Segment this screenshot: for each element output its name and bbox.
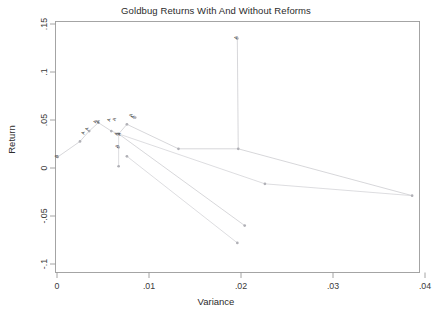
data-point-marker bbox=[117, 165, 120, 168]
y-tick-label: 0 bbox=[39, 165, 49, 170]
data-point-marker bbox=[411, 194, 414, 197]
data-point-marker bbox=[126, 155, 129, 158]
y-tick-label: .05 bbox=[39, 114, 49, 126]
data-point-marker bbox=[237, 147, 240, 150]
point-annotation-label: A bbox=[114, 143, 120, 148]
data-markers-group bbox=[56, 37, 413, 244]
data-point-marker bbox=[177, 147, 180, 150]
chart-container: Goldbug Returns With And Without Reforms… bbox=[0, 0, 432, 316]
frontier-path bbox=[119, 134, 245, 226]
x-tick-label: .01 bbox=[143, 281, 155, 291]
data-point-marker bbox=[126, 123, 129, 126]
y-tick-label: -.1 bbox=[39, 259, 49, 269]
point-annotation-label: A bbox=[233, 35, 239, 40]
data-point-marker bbox=[243, 224, 246, 227]
data-point-marker bbox=[79, 140, 82, 143]
frontier-lines-group bbox=[58, 38, 412, 242]
point-annotation-label: A bbox=[95, 119, 101, 124]
frontier-path bbox=[127, 156, 237, 243]
x-tick-label: .03 bbox=[327, 281, 339, 291]
data-point-marker bbox=[264, 182, 267, 185]
data-point-marker bbox=[110, 130, 113, 133]
x-tick-label: .04 bbox=[419, 281, 431, 291]
plot-svg: -.1-.050.05.1.15 0.01.02.03.04 AAAAAAAAA… bbox=[0, 0, 432, 316]
data-point-marker bbox=[236, 242, 239, 245]
x-tick-label: .02 bbox=[235, 281, 247, 291]
y-tick-label: .1 bbox=[39, 68, 49, 75]
frontier-path bbox=[58, 123, 412, 196]
point-annotation-label: A bbox=[84, 126, 90, 131]
y-tick-label: -.05 bbox=[39, 208, 49, 223]
point-annotation-label: A bbox=[116, 131, 122, 136]
frontier-path bbox=[119, 134, 412, 196]
x-tick-label: 0 bbox=[55, 281, 60, 291]
point-annotation-label: A bbox=[54, 153, 60, 158]
frontier-path bbox=[237, 38, 238, 148]
y-tick-group: -.1-.050.05.1.15 bbox=[39, 18, 55, 269]
y-tick-label: .15 bbox=[39, 18, 49, 30]
point-annotation-label: A bbox=[112, 117, 118, 122]
x-tick-group: 0.01.02.03.04 bbox=[55, 273, 432, 292]
